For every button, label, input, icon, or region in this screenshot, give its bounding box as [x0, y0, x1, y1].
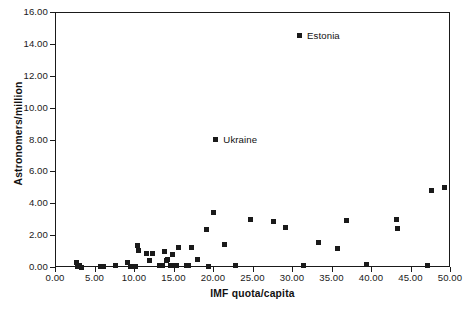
y-tick-mark: [50, 76, 55, 77]
point-annotation: Estonia: [307, 31, 340, 41]
data-point: [395, 226, 400, 231]
data-point: [174, 263, 179, 268]
x-axis-title: IMF quota/capita: [55, 288, 450, 299]
y-tick-label-text: 2.00: [4, 230, 48, 240]
data-point: [222, 242, 227, 247]
data-point: [344, 218, 349, 223]
data-point: [133, 264, 138, 269]
data-point: [233, 263, 238, 268]
data-point: [335, 246, 340, 251]
y-tick-label-text: 4.00: [4, 198, 48, 208]
data-point: [144, 251, 149, 256]
data-point: [316, 240, 321, 245]
y-tick-mark: [50, 171, 55, 172]
y-tick-label-text: 14.00: [4, 39, 48, 49]
y-tick-label-text: 0.00: [4, 262, 48, 272]
y-tick-label-text: 16.00: [4, 7, 48, 17]
data-point: [297, 33, 302, 38]
data-point: [394, 217, 399, 222]
y-axis-title: Astronomers/million: [13, 54, 24, 214]
x-tick-label: 50.00: [425, 272, 467, 283]
data-point: [248, 217, 253, 222]
data-point: [195, 257, 200, 262]
data-point: [186, 263, 191, 268]
data-point: [283, 225, 288, 230]
y-tick-label: 14.00: [0, 39, 48, 49]
data-point: [79, 265, 84, 270]
data-point: [429, 188, 434, 193]
y-tick-label-text: 6.00: [4, 166, 48, 176]
data-point: [425, 263, 430, 268]
y-tick-label-text: 10.00: [4, 103, 48, 113]
y-tick-mark: [50, 44, 55, 45]
data-point: [189, 245, 194, 250]
y-tick-label: 8.00: [0, 135, 48, 145]
scatter-chart: 0.002.004.006.008.0010.0012.0014.0016.00…: [0, 0, 467, 311]
y-tick-label: 4.00: [0, 198, 48, 208]
data-point: [113, 263, 118, 268]
data-point: [204, 227, 209, 232]
y-tick-label: 0.00: [0, 262, 48, 272]
y-tick-label-text: 8.00: [4, 135, 48, 145]
data-point: [160, 263, 165, 268]
y-tick-mark: [50, 108, 55, 109]
data-point: [213, 137, 218, 142]
data-point: [170, 252, 175, 257]
data-point: [150, 251, 155, 256]
point-annotation: Ukraine: [223, 135, 257, 145]
data-point: [211, 210, 216, 215]
data-point: [442, 185, 447, 190]
y-tick-label: 10.00: [0, 103, 48, 113]
data-point: [136, 248, 141, 253]
data-point: [101, 264, 106, 269]
y-tick-label: 16.00: [0, 7, 48, 17]
data-point: [147, 258, 152, 263]
y-tick-label-text: 12.00: [4, 71, 48, 81]
y-tick-label: 2.00: [0, 230, 48, 240]
data-point: [165, 257, 170, 262]
y-tick-mark: [50, 203, 55, 204]
y-tick-mark: [50, 235, 55, 236]
y-tick-label: 6.00: [0, 166, 48, 176]
data-point: [176, 245, 181, 250]
y-tick-mark: [50, 140, 55, 141]
data-point: [162, 249, 167, 254]
y-tick-mark: [50, 12, 55, 13]
y-tick-label: 12.00: [0, 71, 48, 81]
data-point: [206, 264, 211, 269]
data-point: [301, 263, 306, 268]
data-point: [364, 262, 369, 267]
data-point: [271, 219, 276, 224]
